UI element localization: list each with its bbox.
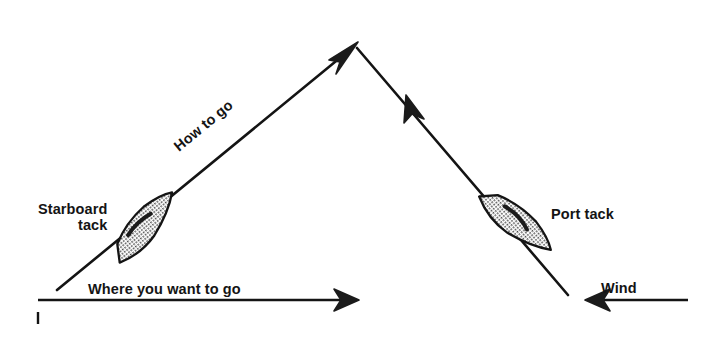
starboard-tack-leg-line xyxy=(57,48,352,290)
course-lines-group xyxy=(57,42,568,295)
starboard-tack-label-line2: tack xyxy=(38,217,107,233)
starboard-boat-hull-icon xyxy=(102,187,188,266)
starboard-tack-boat xyxy=(102,187,188,266)
starboard-tack-label: Starboard tack xyxy=(38,201,107,233)
port-boat-hull-icon xyxy=(476,179,556,266)
sailing-tack-diagram: Starboard tack Port tack How to go Where… xyxy=(0,0,720,347)
apex-arrowhead-icon xyxy=(329,42,358,74)
port-tack-boat xyxy=(476,179,556,266)
wind-label: Wind xyxy=(601,280,637,296)
port-tack-label: Port tack xyxy=(551,206,614,222)
where-you-want-to-go-label: Where you want to go xyxy=(88,281,241,297)
port-tack-leg-line xyxy=(357,48,568,295)
starboard-tack-label-line1: Starboard xyxy=(38,201,107,217)
port-leg-arrowhead-icon xyxy=(404,95,424,123)
